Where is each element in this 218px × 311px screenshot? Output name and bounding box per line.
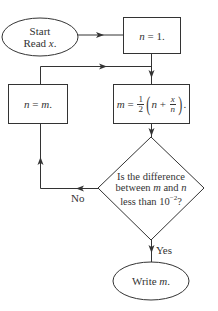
x-over-n-fraction: xn: [170, 95, 176, 114]
start-node: Start Read x.: [2, 18, 78, 56]
start-label: Start: [30, 25, 51, 37]
decision-node: Is the difference between m and n less t…: [100, 172, 202, 206]
no-label: No: [71, 192, 84, 204]
compute-node: m = 12(n + xn).: [113, 84, 190, 124]
half-fraction: 12: [137, 95, 144, 114]
init-text: = 1.: [145, 30, 165, 42]
update-node: n = m.: [8, 84, 68, 124]
output-node: Write m.: [113, 262, 189, 300]
yes-label: Yes: [156, 244, 172, 256]
init-node: n = 1.: [123, 17, 181, 54]
read-x-label: Read x.: [24, 37, 57, 49]
